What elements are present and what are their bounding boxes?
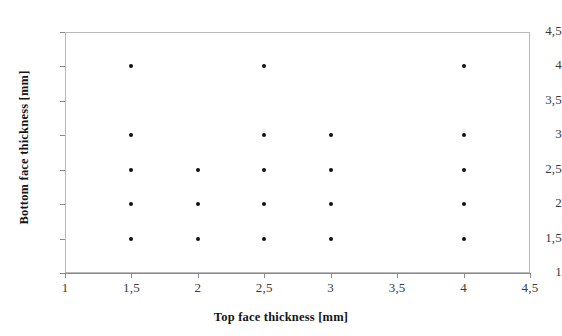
x-tick xyxy=(198,273,199,278)
y-tick-label: 1 xyxy=(510,264,562,280)
x-tick-label: 2 xyxy=(178,280,218,296)
y-tick-label: 2 xyxy=(510,195,562,211)
x-tick-label: 4 xyxy=(444,280,484,296)
data-point xyxy=(262,237,266,241)
data-point xyxy=(196,237,200,241)
y-tick-label: 4 xyxy=(510,57,562,73)
x-tick-label: 3,5 xyxy=(377,280,417,296)
data-point xyxy=(462,202,466,206)
data-point xyxy=(329,133,333,137)
x-tick xyxy=(131,273,132,278)
x-tick xyxy=(65,273,66,278)
x-tick xyxy=(397,273,398,278)
x-axis-line xyxy=(65,273,531,274)
data-point xyxy=(262,168,266,172)
x-tick-label: 2,5 xyxy=(244,280,284,296)
x-axis-title: Top face thickness [mm] xyxy=(0,310,562,325)
x-tick-label: 1,5 xyxy=(111,280,151,296)
data-point xyxy=(329,237,333,241)
x-tick-label: 4,5 xyxy=(510,280,550,296)
x-tick xyxy=(464,273,465,278)
x-tick xyxy=(264,273,265,278)
y-tick-label: 3 xyxy=(510,126,562,142)
y-tick xyxy=(60,239,65,240)
y-tick-label: 1,5 xyxy=(510,230,562,246)
y-tick-label: 3,5 xyxy=(510,92,562,108)
data-point xyxy=(329,202,333,206)
data-point xyxy=(196,168,200,172)
y-tick xyxy=(60,135,65,136)
y-tick xyxy=(60,101,65,102)
data-point xyxy=(329,168,333,172)
data-point xyxy=(462,168,466,172)
y-tick xyxy=(60,170,65,171)
y-axis-title: Bottom face thickness [mm] xyxy=(17,28,32,268)
y-tick xyxy=(60,204,65,205)
y-tick xyxy=(60,32,65,33)
x-tick-label: 3 xyxy=(311,280,351,296)
y-tick-label: 2,5 xyxy=(510,161,562,177)
x-tick-label: 1 xyxy=(45,280,85,296)
data-point xyxy=(196,202,200,206)
y-tick xyxy=(60,66,65,67)
plot-area xyxy=(65,32,530,273)
data-point xyxy=(462,133,466,137)
data-point xyxy=(462,237,466,241)
x-tick xyxy=(331,273,332,278)
y-tick-label: 4,5 xyxy=(510,23,562,39)
scatter-chart-figure: 11,522,533,544,5 11,522,533,544,5 Top fa… xyxy=(0,0,562,336)
